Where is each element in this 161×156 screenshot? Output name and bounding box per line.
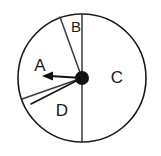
spinner-diagram: A B C D [0, 0, 161, 156]
spinner-figure: A B C D [0, 0, 161, 156]
sector-label-b: B [71, 18, 81, 35]
spinner-hub[interactable] [75, 71, 89, 85]
sector-label-a: A [34, 56, 46, 75]
sector-label-d: D [56, 101, 68, 120]
sector-label-c: C [111, 68, 123, 87]
